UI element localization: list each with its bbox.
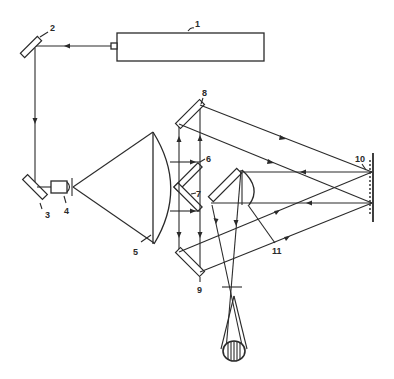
cone-upper — [73, 132, 153, 187]
beam-cross-2 — [226, 170, 241, 350]
beam-m8-upper — [200, 105, 372, 172]
arrow-icon — [177, 232, 182, 238]
arrow-icon — [198, 135, 203, 141]
leader-4 — [64, 196, 66, 203]
leader-11 — [248, 205, 275, 243]
arrow-icon — [306, 201, 312, 206]
leader-2 — [40, 32, 48, 37]
arrow-icon — [274, 210, 280, 215]
arrow-icon — [198, 232, 203, 238]
label-6: 6 — [206, 154, 211, 164]
laser — [111, 33, 264, 61]
arrow-icon — [190, 209, 196, 214]
arrow-icon — [284, 236, 290, 241]
label-11: 11 — [272, 246, 282, 256]
leader-3 — [40, 203, 42, 209]
label-4: 4 — [64, 206, 69, 216]
arrow-icon — [279, 135, 286, 140]
arrow-icon — [190, 160, 196, 165]
leader-6 — [200, 159, 205, 162]
cone-lower — [73, 187, 154, 243]
arrow-icon — [64, 44, 70, 49]
arrow-icon — [177, 136, 182, 142]
arrow-icon — [267, 159, 274, 164]
mirror-2 — [20, 36, 41, 57]
detector-eye — [223, 341, 245, 361]
label-5: 5 — [133, 247, 138, 257]
objective-4 — [51, 178, 72, 196]
optical-setup-diagram: 1 2 3 4 5 6 7 — [0, 0, 394, 379]
label-1: 1 — [195, 19, 200, 29]
mirror-imaging — [208, 168, 241, 201]
label-10: 10 — [355, 154, 365, 164]
arrow-icon — [234, 220, 239, 226]
arrow-icon — [33, 118, 38, 124]
lens-11 — [242, 170, 254, 205]
label-2: 2 — [50, 23, 55, 33]
lens-5 — [153, 132, 171, 244]
label-8: 8 — [202, 88, 207, 98]
leader-5 — [141, 235, 151, 242]
leader-1 — [188, 28, 194, 31]
grating-10 — [370, 153, 373, 222]
label-3: 3 — [45, 210, 50, 220]
label-9: 9 — [197, 285, 202, 295]
arrow-icon — [214, 218, 219, 224]
